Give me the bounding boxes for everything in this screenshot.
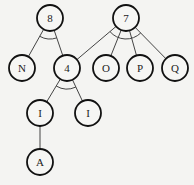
node-label: I	[86, 107, 90, 119]
node-I: I	[27, 100, 53, 126]
node-label: P	[137, 62, 143, 74]
and-arcs	[40, 32, 141, 89]
node-A: A	[27, 149, 53, 175]
node-label: 4	[64, 62, 70, 74]
and-arc-n7	[110, 32, 141, 39]
node-P: P	[127, 55, 153, 81]
edge-n7-nP	[130, 31, 137, 56]
and-arc-n8	[40, 36, 57, 39]
edge-n4-nI2	[72, 80, 82, 101]
node-Q: Q	[162, 55, 188, 81]
tree-diagram: 87N4OPQIIA	[0, 0, 194, 185]
node-label: N	[18, 62, 26, 74]
node-O: O	[93, 55, 119, 81]
node-I: I	[75, 100, 101, 126]
edges	[28, 26, 166, 149]
node-label: O	[102, 62, 110, 74]
node-7: 7	[113, 5, 139, 31]
node-8: 8	[37, 5, 63, 31]
edge-n4-nI1	[47, 79, 61, 102]
node-label: 8	[47, 12, 53, 24]
node-label: I	[38, 107, 42, 119]
edge-n8-nN	[28, 29, 43, 56]
edge-n8-n4	[54, 30, 63, 55]
nodes: 87N4OPQIIA	[9, 5, 188, 175]
edge-n7-nQ	[135, 27, 166, 58]
edge-n7-n4	[77, 26, 116, 59]
node-label: A	[36, 156, 44, 168]
node-label: Q	[171, 62, 179, 74]
node-4: 4	[54, 55, 80, 81]
and-arc-n4	[56, 86, 76, 89]
node-N: N	[9, 55, 35, 81]
node-label: 7	[123, 12, 129, 24]
